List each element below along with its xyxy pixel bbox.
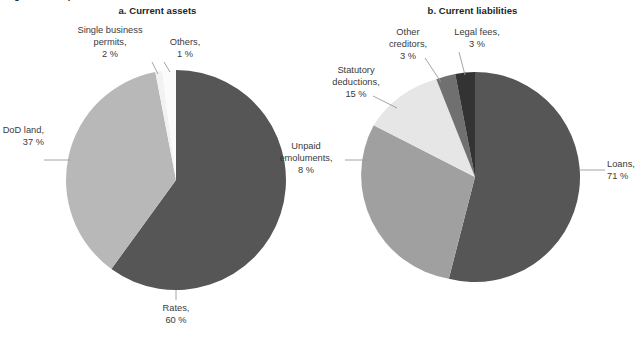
label-dod-land: DoD land, 37 % — [0, 124, 44, 148]
pie-chart-current-liabilities — [315, 0, 630, 337]
leader-line-legal-fees — [459, 52, 465, 75]
label-others: Others, 1 % — [155, 36, 215, 60]
label-unpaid-emoluments: Unpaid emoluments, 8 % — [267, 140, 345, 177]
pie-svg-current-liabilities — [315, 0, 630, 337]
label-loans: Loans, 71 % — [607, 158, 639, 182]
label-statutory-deductions: Statutory deductions, 15 % — [309, 64, 403, 101]
label-rates: Rates, 60 % — [131, 302, 221, 326]
label-legal-fees: Legal fees, 3 % — [439, 26, 515, 50]
panel-current-liabilities: b. Current liabilities — [315, 0, 630, 337]
label-other-creditors: Other creditors, 3 % — [375, 26, 441, 63]
label-single-business-permits: Single business permits, 2 % — [56, 24, 164, 61]
